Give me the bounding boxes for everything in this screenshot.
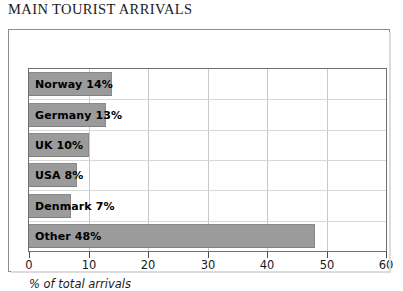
bar-label: Norway 14% — [35, 78, 113, 91]
bar-row[interactable]: Denmark 7% — [29, 194, 386, 218]
plot-area: Norway 14%Germany 13%UK 10%USA 8%Denmark… — [28, 68, 387, 252]
gridline-horizontal — [29, 190, 386, 191]
bar-row[interactable]: UK 10% — [29, 133, 386, 157]
gridline-horizontal — [29, 130, 386, 131]
bar-row[interactable]: USA 8% — [29, 163, 386, 187]
x-tick-label: 0 — [25, 258, 32, 272]
bar-label: Germany 13% — [35, 109, 122, 122]
x-tick-label: 60 — [379, 258, 394, 272]
chart-title: MAIN TOURIST ARRIVALS — [8, 1, 193, 18]
gridline-horizontal — [29, 99, 386, 100]
gridline-horizontal — [29, 160, 386, 161]
bar-label: Other 48% — [35, 230, 101, 243]
figure-border: Norway 14%Germany 13%UK 10%USA 8%Denmark… — [8, 29, 390, 272]
bar-row[interactable]: Other 48% — [29, 224, 386, 248]
bar-label: Denmark 7% — [35, 200, 115, 213]
x-tick-label: 10 — [82, 258, 97, 272]
x-tick-label: 40 — [260, 258, 275, 272]
x-tick-label: 20 — [141, 258, 156, 272]
bar-row[interactable]: Norway 14% — [29, 72, 386, 96]
x-axis: 0102030405060 — [28, 252, 387, 258]
bar-label: USA 8% — [35, 169, 83, 182]
x-tick-label: 30 — [201, 258, 216, 272]
x-axis-label: % of total arrivals — [29, 277, 131, 291]
bar-label: UK 10% — [35, 139, 83, 152]
gridline-horizontal — [29, 221, 386, 222]
x-tick-label: 50 — [320, 258, 335, 272]
bar-row[interactable]: Germany 13% — [29, 103, 386, 127]
